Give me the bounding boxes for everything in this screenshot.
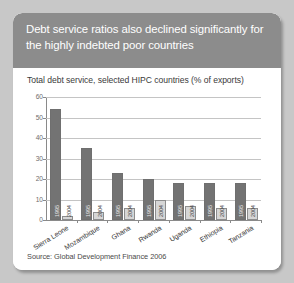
x-axis-tick-mark: [107, 220, 108, 223]
x-axis-tick-mark: [230, 220, 231, 223]
bar-value-label: 1995: [85, 205, 91, 217]
figure-card: Debt service ratios also declined signif…: [13, 13, 281, 270]
y-axis-tick-label: 20: [23, 175, 43, 182]
bar-value-label: 2004: [97, 205, 103, 217]
x-axis-line: [46, 220, 261, 221]
y-axis-tick-mark: [43, 200, 46, 201]
bar-value-label: 2004: [158, 205, 164, 217]
chart-title: Total debt service, selected HIPC countr…: [27, 75, 244, 85]
bar-1995-rwanda: 1995: [143, 179, 154, 220]
bar-2004-mozambique: 2004: [93, 212, 104, 220]
bar-2004-tanzania: 2004: [247, 208, 258, 220]
bar-2004-sierra-leone: 2004: [62, 216, 73, 220]
bar-2004-rwanda: 2004: [155, 200, 166, 221]
bar-value-label: 1995: [238, 205, 244, 217]
bar-1995-tanzania: 1995: [235, 183, 246, 220]
bar-group: 19952004: [81, 97, 105, 220]
bar-value-label: 1995: [115, 205, 121, 217]
bar-group: 19952004: [112, 97, 136, 220]
source-note: Source: Global Development Finance 2006: [27, 252, 166, 261]
y-axis-tick-mark: [43, 220, 46, 221]
y-axis-tick-label: 30: [23, 155, 43, 162]
y-axis-tick-mark: [43, 179, 46, 180]
bar-2004-ethiopia: 2004: [216, 208, 227, 220]
bar-1995-ethiopia: 1995: [204, 183, 215, 220]
bar-group: 19952004: [235, 97, 259, 220]
bar-1995-uganda: 1995: [173, 183, 184, 220]
y-axis-tick-mark: [43, 138, 46, 139]
bar-value-label: 1995: [146, 205, 152, 217]
bar-group: 19952004: [173, 97, 197, 220]
bar-1995-ghana: 1995: [112, 173, 123, 220]
bar-value-label: 2004: [189, 205, 195, 217]
bar-value-label: 1995: [177, 205, 183, 217]
bar-2004-uganda: 2004: [185, 206, 196, 220]
y-axis-tick-mark: [43, 159, 46, 160]
chart-panel: Total debt service, selected HIPC countr…: [13, 68, 281, 270]
x-axis-tick-mark: [200, 220, 201, 223]
bar-value-label: 2004: [66, 205, 72, 217]
y-axis-tick-mark: [43, 97, 46, 98]
y-axis-tick-label: 0: [23, 216, 43, 223]
bar-1995-mozambique: 1995: [81, 148, 92, 220]
bar-value-label: 2004: [127, 205, 133, 217]
bar-1995-sierra-leone: 1995: [50, 109, 61, 220]
y-axis-tick-label: 50: [23, 114, 43, 121]
bar-value-label: 2004: [250, 205, 256, 217]
x-axis-tick-mark: [169, 220, 170, 223]
y-axis-tick-label: 10: [23, 196, 43, 203]
figure-header-title: Debt service ratios also declined signif…: [26, 22, 268, 53]
plot-area: 010203040506019952004Sierra Leone1995200…: [46, 97, 261, 220]
bar-value-label: 2004: [219, 205, 225, 217]
bar-group: 19952004: [50, 97, 74, 220]
x-axis-tick-mark: [261, 220, 262, 223]
figure-header: Debt service ratios also declined signif…: [13, 13, 281, 68]
y-axis-tick-label: 40: [23, 134, 43, 141]
bar-value-label: 1995: [207, 205, 213, 217]
x-axis-tick-mark: [138, 220, 139, 223]
y-axis-tick-label: 60: [23, 93, 43, 100]
bar-group: 19952004: [143, 97, 167, 220]
bar-group: 19952004: [204, 97, 228, 220]
x-axis-tick-mark: [77, 220, 78, 223]
bar-value-label: 1995: [54, 205, 60, 217]
bar-2004-ghana: 2004: [124, 208, 135, 220]
y-axis-tick-mark: [43, 118, 46, 119]
